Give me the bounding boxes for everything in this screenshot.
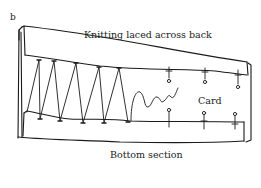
- pins-bottom: [167, 108, 238, 129]
- top-section-label: Knitting laced across back: [84, 29, 212, 40]
- loose-thread: [131, 88, 178, 121]
- card-frame: [18, 30, 251, 142]
- lacing-diagram: b: [0, 0, 261, 188]
- pin-icon: [232, 112, 238, 129]
- pin-icon: [235, 70, 241, 89]
- bottom-section-label: Bottom section: [110, 149, 183, 160]
- lacing-thread: [27, 60, 130, 123]
- pin-icon: [201, 111, 207, 129]
- lacing-knots: [37, 60, 130, 123]
- card-label: Card: [198, 95, 222, 106]
- panel-label: b: [10, 12, 16, 22]
- pin-icon: [167, 108, 170, 127]
